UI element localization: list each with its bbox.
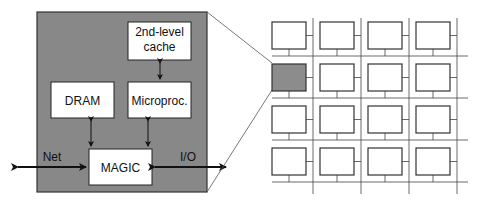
mesh-node	[368, 64, 402, 91]
architecture-diagram: 2nd-level cache DRAM Microproc. MAGIC Ne…	[0, 0, 477, 206]
microproc-label: Microproc.	[131, 94, 187, 108]
mesh-node	[368, 22, 402, 49]
mesh-node	[320, 148, 354, 175]
mesh-node	[320, 106, 354, 133]
cache-label-1: 2nd-level	[135, 25, 184, 39]
dram-label: DRAM	[65, 94, 100, 108]
zoom-line-bottom	[207, 90, 272, 192]
mesh-node	[272, 148, 306, 175]
zoom-line-top	[207, 12, 272, 63]
mesh-node	[272, 22, 306, 49]
mesh-node	[416, 22, 450, 49]
mesh-node	[416, 64, 450, 91]
node-detail: 2nd-level cache DRAM Microproc. MAGIC Ne…	[18, 12, 226, 192]
mesh-node	[272, 106, 306, 133]
mesh-node	[320, 22, 354, 49]
io-label: I/O	[180, 150, 196, 164]
mesh-node	[416, 148, 450, 175]
magic-label: MAGIC	[101, 161, 141, 175]
net-label: Net	[43, 150, 62, 164]
mesh-node	[320, 64, 354, 91]
mesh-node	[368, 106, 402, 133]
mesh-node-highlighted	[272, 64, 306, 91]
mesh-node	[368, 148, 402, 175]
cache-label-2: cache	[143, 40, 175, 54]
mesh-node	[416, 106, 450, 133]
mesh-grid	[272, 18, 468, 194]
